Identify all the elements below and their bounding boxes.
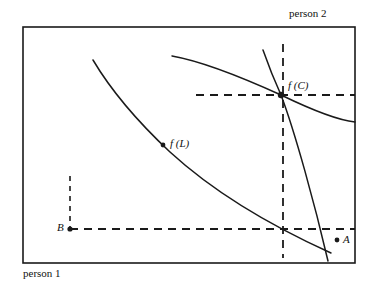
point-marker-fl	[161, 143, 166, 148]
indifference-curve-person2-shallow	[172, 56, 355, 122]
person1-axis-label: person 1	[23, 268, 61, 279]
point-marker-fc	[278, 92, 284, 98]
point-label-a: A	[343, 234, 350, 245]
point-label-fl: f (L)	[170, 138, 189, 149]
person2-axis-label: person 2	[289, 8, 327, 19]
point-label-b: B	[57, 222, 64, 233]
point-label-fc: f (C)	[288, 80, 308, 91]
point-marker-a	[335, 238, 340, 243]
point-marker-b	[67, 226, 72, 231]
